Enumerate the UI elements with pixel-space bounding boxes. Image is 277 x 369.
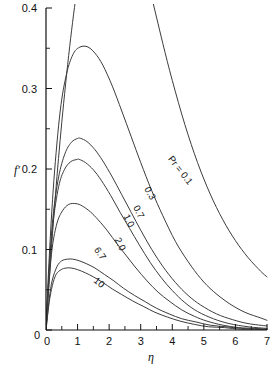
y-tick-label: 0.4 — [22, 2, 37, 14]
curve-label-pr-0.3: 0.3 — [142, 185, 158, 202]
curve-pr-6.7 — [46, 259, 267, 330]
x-tick-label: 1 — [75, 335, 81, 347]
curve-pr-10 — [46, 268, 267, 330]
x-tick-label: 5 — [201, 335, 207, 347]
figure-container: 00.10.20.30.401234567 Pr = 0.10.30.71.02… — [0, 0, 277, 369]
curve-label-pr-2.0: 2.0 — [113, 236, 129, 253]
curve-label-pr-6.7: 6.7 — [92, 245, 109, 262]
curve-label-group: Pr = 0.10.30.71.02.06.710 — [92, 153, 196, 289]
curve-pr-0.1 — [46, 0, 267, 330]
y-axis-title: f′ — [14, 163, 20, 177]
velocity-profile-chart: 00.10.20.30.401234567 Pr = 0.10.30.71.02… — [0, 0, 277, 369]
x-tick-label: 0 — [44, 335, 50, 347]
x-tick-label: 2 — [106, 335, 112, 347]
x-tick-label: 7 — [264, 335, 270, 347]
axes-group — [46, 8, 267, 330]
y-tick-label: 0 — [34, 329, 40, 341]
y-tick-label: 0.3 — [22, 83, 37, 95]
curve-pr-2.0 — [46, 203, 267, 330]
x-tick-label: 3 — [138, 335, 144, 347]
curve-pr-1.0 — [46, 159, 267, 330]
curve-label-pr-0.1: Pr = 0.1 — [166, 153, 195, 186]
curve-group — [46, 0, 267, 330]
y-tick-label: 0.2 — [22, 163, 37, 175]
curve-pr-0.7 — [46, 138, 267, 330]
x-tick-label: 6 — [232, 335, 238, 347]
y-tick-label: 0.1 — [22, 244, 37, 256]
x-axis-title: η — [148, 350, 154, 364]
x-tick-label: 4 — [169, 335, 175, 347]
curve-pr-0.3 — [46, 46, 267, 330]
